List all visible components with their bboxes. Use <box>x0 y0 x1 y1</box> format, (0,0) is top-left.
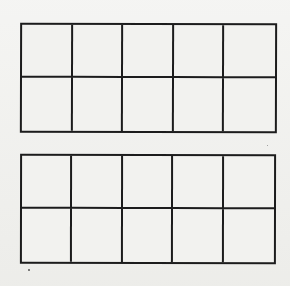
ten-frame-cell <box>174 78 225 131</box>
ten-frame-cell <box>174 25 225 78</box>
ten-frame-cell <box>224 78 275 131</box>
ten-frame-cell <box>22 209 72 262</box>
ten-frame-cell <box>173 156 223 209</box>
ten-frame-cell <box>72 209 122 262</box>
ten-frame-cell <box>123 209 173 262</box>
ten-frame-cell <box>72 78 123 131</box>
ten-frame-cell <box>72 156 122 209</box>
ten-frame-bottom <box>20 154 276 264</box>
ten-frame-cell <box>224 25 275 78</box>
scan-speck <box>28 269 30 271</box>
ten-frame-cell <box>123 25 174 78</box>
ten-frame-cell <box>224 156 274 209</box>
ten-frame-cell <box>173 209 223 262</box>
ten-frame-cell <box>73 25 124 78</box>
ten-frame-cell <box>224 209 274 262</box>
ten-frame-cell <box>123 78 174 131</box>
ten-frame-cell <box>123 156 173 209</box>
scan-speck <box>267 145 268 146</box>
ten-frame-top <box>20 23 277 134</box>
ten-frame-cell <box>22 25 73 78</box>
ten-frame-cell <box>22 78 73 131</box>
ten-frame-cell <box>22 156 72 209</box>
